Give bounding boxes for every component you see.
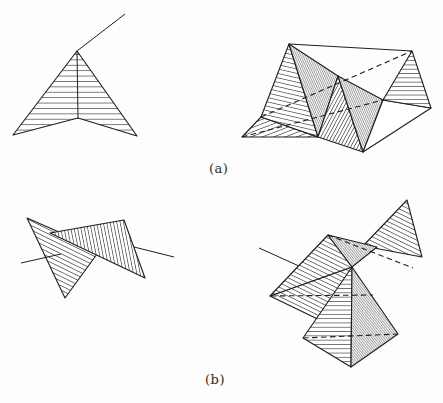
- edge-line: [289, 44, 412, 51]
- folded-surface-a-right: [242, 44, 431, 152]
- hatched-face: [383, 51, 431, 108]
- hatched-face: [13, 51, 137, 136]
- subfigure-label-b: (b): [205, 373, 225, 387]
- edge-line: [259, 248, 299, 266]
- hatched-face: [351, 267, 398, 367]
- self-intersecting-dart-b-left: [21, 218, 174, 298]
- geometry-diagram: [0, 0, 443, 403]
- edge-line: [77, 14, 125, 51]
- figure-canvas: (a) (b): [0, 0, 443, 403]
- dart-folded-triangle-a-left: [13, 14, 137, 136]
- folded-surface-b-right: [259, 200, 422, 367]
- subfigure-label-a: (a): [209, 162, 228, 176]
- edge-line: [134, 247, 174, 257]
